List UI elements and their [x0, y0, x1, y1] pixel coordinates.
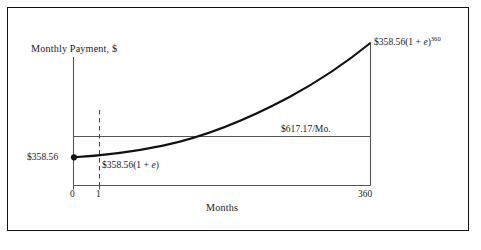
first-month-suffix: ) — [156, 159, 159, 170]
end-value-exponent: 360 — [431, 35, 441, 42]
first-month-prefix: $358.56(1 + — [102, 159, 151, 170]
start-value-annotation: $358.56 — [27, 152, 58, 162]
end-value-annotation: $358.56(1 + e)360 — [374, 36, 441, 47]
x-axis-title: Months — [206, 203, 238, 213]
x-tick-label-0: 0 — [70, 190, 75, 199]
figure-container: Monthly Payment, $ Months $358.56(1 + e)… — [0, 0, 481, 250]
payment-curve — [74, 43, 370, 157]
start-point-marker — [71, 154, 77, 160]
x-tick-label-360: 360 — [358, 190, 372, 199]
y-axis-title: Monthly Payment, $ — [31, 44, 117, 54]
average-payment-annotation: $617.17/Mo. — [281, 124, 331, 134]
end-value-prefix: $358.56(1 + — [374, 36, 423, 47]
first-month-annotation: $358.56(1 + e) — [102, 160, 159, 170]
x-tick-label-1: 1 — [96, 190, 101, 199]
